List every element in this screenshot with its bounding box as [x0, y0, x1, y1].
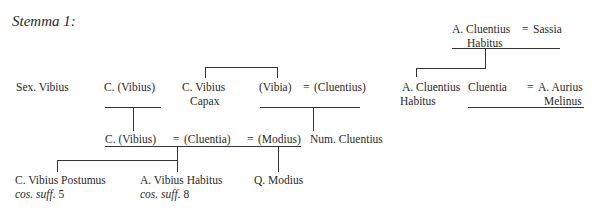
person-cluentia-paren: (Cluentia) — [184, 133, 231, 146]
cos-suff-label: cos. suff. — [15, 188, 56, 200]
descent-line — [313, 107, 314, 131]
person-c-vibius-capax: C. Vibius — [182, 81, 225, 94]
descent-line — [205, 67, 206, 78]
descent-line — [57, 160, 58, 172]
consulship-note: cos. suff. 8 — [140, 188, 189, 201]
marriage-line — [468, 107, 584, 108]
person-c-vibius-capax-cognomen: Capax — [190, 95, 219, 108]
cos-suff-year: 5 — [58, 188, 64, 200]
consulship-note: cos. suff. 5 — [15, 188, 64, 201]
marriage-sign: = — [527, 81, 534, 94]
cos-suff-year: 8 — [183, 188, 189, 200]
sibling-line — [57, 160, 178, 161]
person-cluentius: (Cluentius) — [314, 81, 366, 94]
marriage-sign: = — [522, 23, 529, 36]
descent-line — [277, 67, 278, 78]
person-cluentia: Cluentia — [468, 81, 507, 94]
person-vibia: (Vibia) — [259, 81, 292, 94]
person-a-vibius-habitus: A. Vibius Habitus — [140, 174, 222, 187]
marriage-sign: = — [303, 81, 310, 94]
person-modius: (Modius) — [258, 133, 301, 146]
person-c-vibius: C. (Vibius) — [104, 81, 155, 94]
stemma-title: Stemma 1: — [12, 13, 76, 30]
descent-line — [177, 160, 178, 172]
person-a-cluentius-habitus-jr-cognomen: Habitus — [400, 95, 436, 108]
marriage-sign: = — [173, 133, 180, 146]
descent-line — [278, 146, 279, 172]
marriage-line — [105, 146, 301, 147]
sibling-line — [416, 68, 486, 69]
person-a-cluentius-habitus-sr: A. Cluentius — [452, 23, 510, 36]
person-num-cluentius: Num. Cluentius — [310, 133, 383, 146]
person-a-aurius-melinus: A. Aurius — [538, 81, 583, 94]
person-c-vibius-2: C. (Vibius) — [105, 133, 156, 146]
descent-line — [485, 48, 486, 69]
person-c-vibius-postumus: C. Vibius Postumus — [15, 174, 106, 187]
marriage-line — [260, 107, 360, 108]
cos-suff-label: cos. suff. — [140, 188, 181, 200]
marriage-sign: = — [247, 133, 254, 146]
person-a-cluentius-habitus-jr: A. Cluentius — [402, 81, 460, 94]
descent-line — [133, 107, 134, 131]
person-sassia: Sassia — [533, 23, 562, 36]
marriage-line — [452, 48, 560, 49]
descent-line — [416, 68, 417, 77]
person-sex-vibius: Sex. Vibius — [16, 81, 69, 94]
person-q-modius: Q. Modius — [254, 174, 303, 187]
sibling-line — [205, 67, 278, 68]
